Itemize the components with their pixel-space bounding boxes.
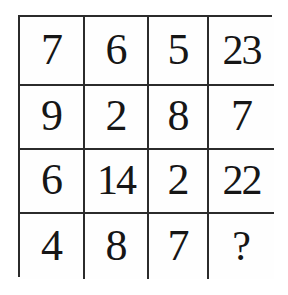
cell-value: 8 (106, 224, 127, 268)
grid-cell-r4c4-unknown[interactable]: ? (209, 214, 274, 279)
grid-cell-r2c2[interactable]: 2 (85, 86, 149, 150)
cell-value: 2 (106, 94, 127, 138)
cell-value: 7 (41, 28, 62, 72)
cell-value: 9 (41, 94, 62, 138)
grid-cell-r1c4[interactable]: 23 (209, 17, 274, 86)
cell-value: 6 (106, 28, 127, 72)
cell-value: 22 (223, 159, 261, 201)
cell-value: 2 (168, 158, 189, 202)
grid-cell-r1c1[interactable]: 7 (20, 17, 85, 86)
cell-value: 5 (168, 28, 189, 72)
grid-cell-r4c2[interactable]: 8 (85, 214, 149, 279)
grid-cell-r3c4[interactable]: 22 (209, 150, 274, 214)
number-grid: 7 6 5 23 9 2 8 7 6 14 2 (18, 15, 272, 277)
cell-value: 7 (168, 224, 189, 268)
grid-cell-r1c3[interactable]: 5 (149, 17, 209, 86)
grid-cell-r3c1[interactable]: 6 (20, 150, 85, 214)
cell-value: 14 (97, 159, 135, 201)
grid-cell-r4c1[interactable]: 4 (20, 214, 85, 279)
grid-cell-r2c4[interactable]: 7 (209, 86, 274, 150)
cell-value: 6 (41, 158, 62, 202)
cell-value: 8 (168, 94, 189, 138)
grid-cell-r2c1[interactable]: 9 (20, 86, 85, 150)
grid-cell-r2c3[interactable]: 8 (149, 86, 209, 150)
grid-cell-r4c3[interactable]: 7 (149, 214, 209, 279)
grid-cell-r3c3[interactable]: 2 (149, 150, 209, 214)
cell-value: 7 (231, 94, 252, 138)
cell-value: 4 (41, 224, 62, 268)
unknown-value-placeholder: ? (232, 225, 251, 267)
puzzle-page: 7 6 5 23 9 2 8 7 6 14 2 (0, 0, 288, 295)
grid-cell-r1c2[interactable]: 6 (85, 17, 149, 86)
grid-cell-r3c2[interactable]: 14 (85, 150, 149, 214)
cell-value: 23 (223, 29, 261, 71)
